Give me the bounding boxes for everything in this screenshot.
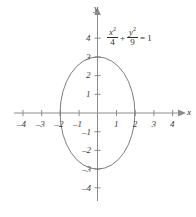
- x-tick-label--3: –3: [36, 120, 45, 129]
- y-tick-label-2: 2: [86, 71, 91, 80]
- x-tick-label-3: 3: [151, 120, 156, 129]
- y-axis-label: y: [94, 4, 98, 13]
- x-tick-label-2: 2: [133, 120, 138, 129]
- y-tick-label--3: –3: [82, 165, 91, 174]
- x-tick-label--1: –1: [73, 120, 82, 129]
- y-tick-label-3: 3: [86, 53, 91, 62]
- x-axis-label: x: [187, 108, 191, 117]
- y-tick-label-1: 1: [86, 90, 91, 99]
- plus-sign: +: [120, 34, 125, 43]
- y-tick-label--2: –2: [82, 146, 91, 155]
- y-tick-label--1: –1: [82, 128, 91, 137]
- fraction-x-denominator: 4: [108, 38, 117, 48]
- x-tick-label--4: –4: [17, 120, 26, 129]
- x-axis-arrowhead: [178, 110, 186, 117]
- y-tick-label-4: 4: [86, 34, 91, 43]
- x-tick-label--2: –2: [54, 120, 63, 129]
- y-tick-label--4: –4: [82, 184, 91, 193]
- fraction-x-numerator: x2: [107, 28, 118, 37]
- equation-rhs: 1: [147, 34, 152, 43]
- equals-sign: =: [140, 34, 145, 43]
- fraction-y-term: y2 9: [127, 28, 138, 48]
- fraction-x-term: x2 4: [107, 28, 118, 48]
- coordinate-plane: [0, 0, 196, 217]
- x-tick-label-4: 4: [170, 120, 175, 129]
- x-tick-label-1: 1: [114, 120, 119, 129]
- fraction-y-numerator: y2: [127, 28, 138, 37]
- fraction-y-denominator: 9: [128, 38, 137, 48]
- ellipse-equation-annotation: x2 4 + y2 9 = 1: [106, 28, 153, 48]
- graph-figure: x y –4 –3 –2 –1 1 2 3 4 4 3 2 1 –1 –2 –3…: [0, 0, 196, 217]
